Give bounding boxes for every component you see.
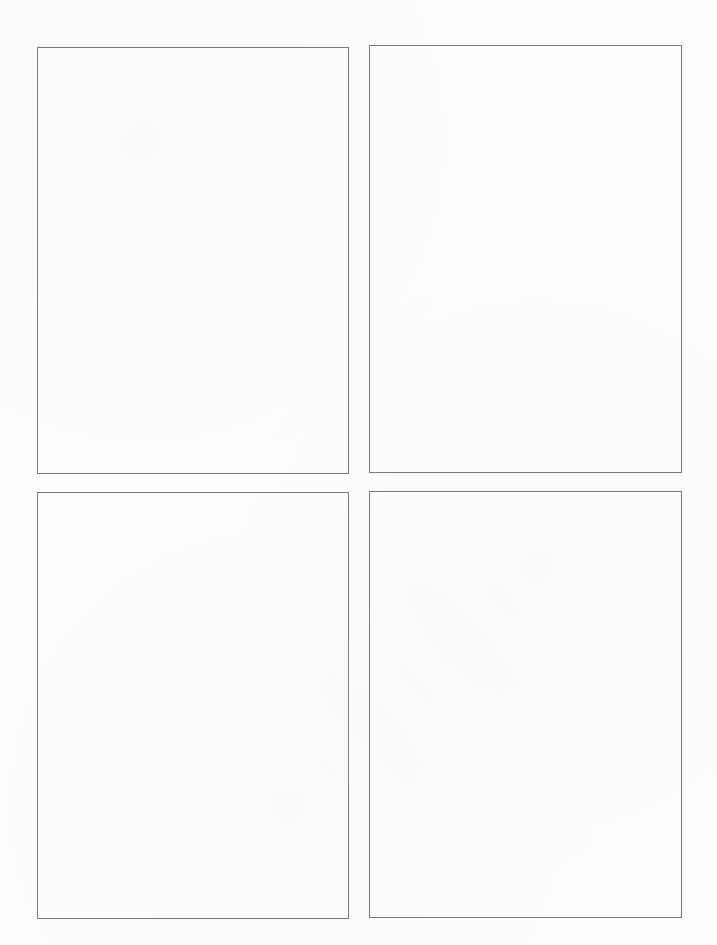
frame-bottom-right (369, 491, 682, 918)
frame-bottom-left (37, 492, 349, 919)
frame-top-right (369, 45, 682, 473)
document-page (0, 0, 717, 945)
frame-top-left (37, 47, 349, 474)
